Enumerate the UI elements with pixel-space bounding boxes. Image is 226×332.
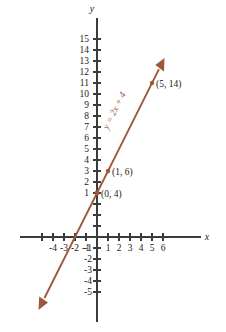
y-tick-label: 2 bbox=[84, 177, 89, 187]
y-tick-label: 13 bbox=[80, 56, 90, 66]
point-label-5-14: (5, 14) bbox=[156, 79, 181, 90]
x-tick-label: 4 bbox=[139, 243, 144, 253]
point-label-1-6: (1, 6) bbox=[112, 167, 133, 178]
x-tick-label: 3 bbox=[128, 243, 133, 253]
x-tick-label: 1 bbox=[106, 243, 111, 253]
x-tick-label: 5 bbox=[150, 243, 155, 253]
y-tick-label: -5 bbox=[84, 287, 92, 297]
y-tick-label: 12 bbox=[80, 67, 90, 77]
y-tick-label: 6 bbox=[84, 133, 89, 143]
point-labels-group: (5, 14) (1, 6) (0, 4) bbox=[101, 79, 181, 200]
line-graph-figure: 15 14 13 12 11 10 9 8 7 6 5 4 3 2 1 -1 -… bbox=[0, 0, 226, 332]
line-arrow-up-icon bbox=[155, 58, 164, 72]
x-tick-label: -1 bbox=[82, 243, 90, 253]
y-tick-label: 3 bbox=[84, 166, 89, 176]
point-label-0-4: (0, 4) bbox=[101, 189, 122, 200]
y-tick-label: -3 bbox=[84, 265, 92, 275]
x-tick-labels: -4 -3 -2 -1 1 2 3 4 5 6 bbox=[49, 243, 166, 253]
y-tick-label: 10 bbox=[80, 89, 90, 99]
x-tick-label: 6 bbox=[161, 243, 166, 253]
x-tick-label: 2 bbox=[117, 243, 122, 253]
y-tick-label: -2 bbox=[84, 254, 92, 264]
y-tick-label: 1 bbox=[84, 188, 89, 198]
y-tick-label: 5 bbox=[84, 144, 89, 154]
y-tick-label: 9 bbox=[84, 100, 89, 110]
y-axis-label: y bbox=[89, 3, 95, 14]
x-tick-label: -4 bbox=[49, 243, 57, 253]
y-tick-label: -4 bbox=[84, 276, 92, 286]
y-tick-label: 11 bbox=[80, 78, 89, 88]
y-tick-label: 4 bbox=[84, 155, 89, 165]
y-tick-labels: 15 14 13 12 11 10 9 8 7 6 5 4 3 2 1 -1 -… bbox=[80, 34, 93, 297]
axes-group bbox=[20, 18, 201, 322]
y-tick-label: 7 bbox=[84, 122, 89, 132]
point-marker-0-4 bbox=[95, 191, 100, 196]
y-tick-label: 15 bbox=[80, 34, 90, 44]
y-tick-label: 8 bbox=[84, 111, 89, 121]
point-marker-1-6 bbox=[106, 169, 110, 173]
plotted-line bbox=[45, 70, 159, 298]
equation-label: y = 2x + 4 bbox=[100, 90, 128, 132]
x-axis-label: x bbox=[204, 231, 210, 242]
y-tick-label: 14 bbox=[80, 45, 90, 55]
line-arrow-down-icon bbox=[39, 296, 49, 310]
point-marker-5-14 bbox=[150, 81, 154, 85]
plotted-line-group bbox=[39, 58, 165, 310]
